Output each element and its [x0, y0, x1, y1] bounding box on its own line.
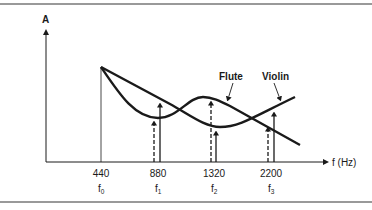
tick-1320: 1320	[203, 168, 226, 179]
tick-880: 880	[150, 168, 167, 179]
symbol-f2: f2	[211, 183, 218, 195]
violin-pointer	[274, 83, 280, 99]
flute-pointer	[228, 83, 233, 99]
symbol-f1: f1	[155, 183, 162, 195]
flute-label: Flute	[219, 71, 243, 82]
y-axis-label: A	[42, 14, 49, 25]
tick-2200: 2200	[260, 168, 283, 179]
violin-label: Violin	[262, 71, 289, 82]
symbol-f0: f0	[98, 183, 105, 195]
symbol-f3: f3	[268, 183, 275, 195]
tick-440: 440	[93, 168, 110, 179]
harmonics-diagram: A f (Hz) Flute Violin 440 880 1320 2200 …	[0, 0, 372, 210]
x-axis-label: f (Hz)	[332, 157, 356, 168]
